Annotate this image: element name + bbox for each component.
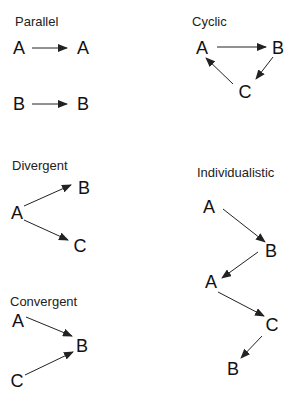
cyclic-node-b: B [272,39,284,57]
individualistic-arrow-icon [222,252,258,278]
convergent-arrow-icon [26,317,72,336]
individualistic-node-b: B [265,242,277,260]
individualistic-arrow-icon [223,209,265,242]
diagram-canvas [0,0,295,395]
individualistic-node-c: C [266,316,279,334]
convergent-title: Convergent [10,294,77,309]
parallel-node-a: A [13,39,25,57]
individualistic-node-a: A [205,273,217,291]
convergent-node-b: B [76,337,88,355]
divergent-node-b: B [78,179,90,197]
cyclic-arrow-icon [256,57,273,79]
parallel-node-b: B [13,95,25,113]
cyclic-node-a: A [196,39,208,57]
divergent-node-c: C [74,237,87,255]
divergent-arrow-icon [24,185,71,206]
individualistic-arrow-icon [241,336,262,358]
edges-layer [24,47,273,375]
cyclic-arrow-icon [206,58,233,84]
parallel-node-b: B [77,95,89,113]
convergent-node-a: A [12,312,24,330]
individualistic-node-b: B [227,360,239,378]
divergent-arrow-icon [24,220,68,240]
parallel-title: Parallel [15,14,58,29]
cyclic-title: Cyclic [192,14,227,29]
divergent-title: Divergent [12,158,68,173]
convergent-node-c: C [11,372,24,390]
individualistic-arrow-icon [218,292,264,316]
individualistic-node-a: A [203,198,215,216]
individualistic-title: Individualistic [197,165,274,180]
parallel-node-a: A [77,39,89,57]
cyclic-node-c: C [239,83,252,101]
divergent-node-a: A [11,204,23,222]
convergent-arrow-icon [25,352,73,375]
